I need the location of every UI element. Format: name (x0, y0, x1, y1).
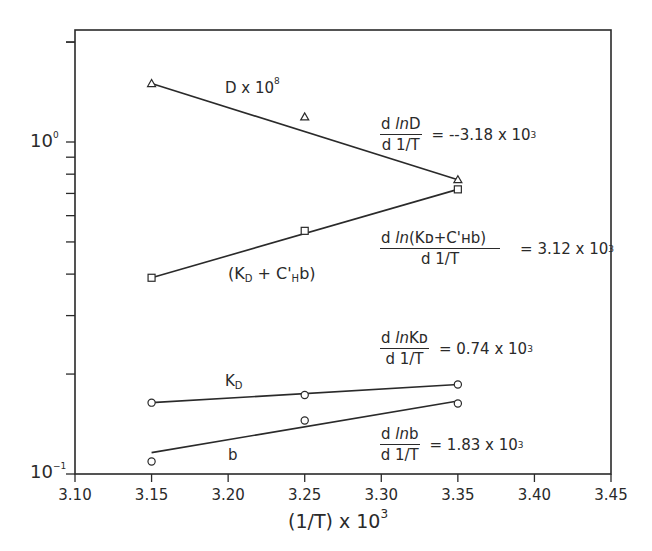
y-tick-exp: −1 (53, 461, 66, 471)
square-marker (454, 186, 461, 193)
fraction: d ln(Kᴅ+C'ʜb) d 1/T (380, 230, 500, 268)
plot-canvas: 3.103.153.203.253.303.353.403.45 (0, 0, 652, 551)
series-label-d-text: D x 10 (225, 79, 274, 97)
y-tick-base: 10 (30, 130, 53, 151)
slope-exp: 3 (527, 344, 533, 354)
numerator: d ln(Kᴅ+C'ʜb) (380, 230, 500, 249)
series-label-kd: KD (225, 372, 243, 391)
label-sub: D (235, 380, 243, 391)
slope-value: = --3.18 x 10 (432, 126, 531, 144)
circle-marker (454, 400, 461, 407)
num-part: D (409, 115, 421, 133)
circle-marker (148, 458, 155, 465)
slope-value: = 3.12 x 10 (520, 240, 608, 258)
num-part: Kᴅ (409, 329, 428, 347)
label-part: (K (228, 264, 245, 283)
denominator: d 1/T (382, 135, 420, 154)
num-part: ln (395, 115, 409, 133)
denominator: d 1/T (421, 249, 459, 268)
label-part: + C' (252, 264, 291, 283)
slope-exp: 3 (531, 130, 537, 140)
label-sub: H (292, 273, 300, 284)
series-label-b: b (228, 446, 238, 464)
num-part: d (381, 229, 395, 247)
slope-value: = 0.74 x 10 (439, 340, 527, 358)
y-tick-exp: 0 (53, 130, 59, 140)
x-tick-label: 3.15 (135, 486, 168, 504)
slope-annotation-d: d lnD d 1/T = --3.18 x 103 (380, 116, 536, 154)
numerator: d lnKᴅ (380, 330, 429, 349)
square-marker (148, 274, 155, 281)
num-part: (Kᴅ+C'ʜb) (409, 229, 486, 247)
x-tick-label: 3.10 (58, 486, 91, 504)
y-tick-label-10e0: 100 (30, 130, 59, 151)
series-label-d-exp: 8 (274, 76, 280, 86)
fraction: d lnD d 1/T (380, 116, 422, 154)
num-part: d (381, 115, 395, 133)
slope-exp: 3 (608, 244, 614, 254)
num-part: ln (395, 329, 409, 347)
num-part: d (381, 425, 395, 443)
series-label-kd-plus-chb: (KD + C'Hb) (228, 264, 316, 284)
circle-marker (454, 381, 461, 388)
x-tick-label: 3.35 (441, 486, 474, 504)
series-label-d: D x 108 (225, 76, 280, 97)
num-part: b (409, 425, 419, 443)
denominator: d 1/T (381, 445, 419, 464)
y-tick-label-10e-1: 10−1 (30, 461, 66, 482)
num-part: ln (395, 425, 409, 443)
fraction: d lnb d 1/T (380, 426, 420, 464)
slope-exp: 3 (518, 440, 524, 450)
x-tick-labels: 3.103.153.203.253.303.353.403.45 (58, 486, 627, 504)
x-tick-label: 3.40 (518, 486, 551, 504)
num-part: ln (395, 229, 409, 247)
y-tick-base: 10 (30, 461, 53, 482)
triangle-marker (301, 113, 309, 120)
label-part: b (228, 446, 238, 464)
label-part: K (225, 372, 235, 390)
circle-marker (301, 391, 308, 398)
num-part: d (381, 329, 395, 347)
square-marker (301, 227, 308, 234)
x-tick-label: 3.30 (365, 486, 398, 504)
label-part: b) (299, 264, 315, 283)
slope-annotation-kd-plus-chb: d ln(Kᴅ+C'ʜb) d 1/T = 3.12 x 103 (380, 230, 614, 268)
slope-annotation-b: d lnb d 1/T = 1.83 x 103 (380, 426, 524, 464)
circle-marker (148, 399, 155, 406)
denominator: d 1/T (385, 349, 423, 368)
fraction: d lnKᴅ d 1/T (380, 330, 429, 368)
triangle-marker (148, 80, 156, 87)
numerator: d lnD (380, 116, 422, 135)
slope-annotation-kd: d lnKᴅ d 1/T = 0.74 x 103 (380, 330, 533, 368)
x-tick-label: 3.25 (288, 486, 321, 504)
x-axis-title-exp: 3 (380, 507, 388, 521)
x-tick-label: 3.45 (594, 486, 627, 504)
x-axis-title: (1/T) x 103 (288, 507, 388, 532)
numerator: d lnb (380, 426, 420, 445)
x-tick-label: 3.20 (211, 486, 244, 504)
slope-value: = 1.83 x 10 (430, 436, 518, 454)
x-axis-title-text: (1/T) x 10 (288, 510, 380, 532)
circle-marker (301, 417, 308, 424)
